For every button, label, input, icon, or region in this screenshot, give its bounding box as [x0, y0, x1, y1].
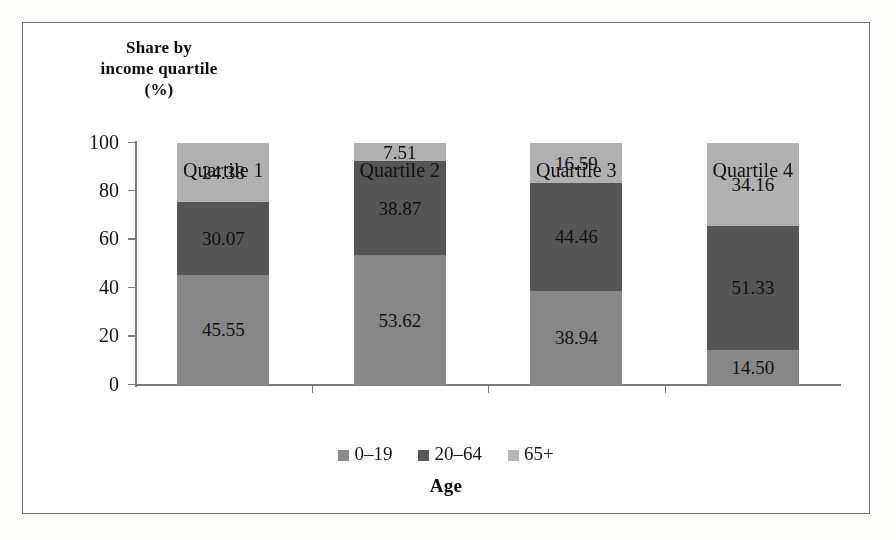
x-tick-1 [312, 385, 313, 393]
bar-value-label: 30.07 [202, 229, 245, 248]
y-axis-title: Share by income quartile (%) [75, 37, 243, 100]
y-tick-label-20: 20 [99, 324, 119, 347]
bar-value-label: 53.62 [378, 311, 421, 330]
bar-value-label: 45.55 [202, 320, 245, 339]
bar-segment-019-q2: 53.62 [354, 255, 446, 385]
y-tick-20: 20 [128, 335, 135, 336]
bar-value-label: 44.46 [555, 227, 598, 246]
y-tick-label-100: 100 [89, 130, 119, 153]
plot-area: 100 80 60 40 20 0 24.3830.0745.557.5138.… [135, 143, 841, 385]
bar-value-label: 38.94 [555, 328, 598, 347]
y-tick-label-0: 0 [109, 372, 119, 395]
x-axis-title: Age [23, 475, 869, 497]
bar-segment-019-q3: 38.94 [530, 291, 622, 385]
legend-label: 65+ [524, 443, 554, 465]
y-tick-label-60: 60 [99, 227, 119, 250]
bar-segment-2064-q4: 51.33 [707, 226, 799, 350]
y-tick-label-40: 40 [99, 275, 119, 298]
bar-segment-019-q1: 45.55 [177, 275, 269, 385]
y-tick-label-80: 80 [99, 179, 119, 202]
legend-item-019[interactable]: 0–19 [338, 443, 392, 465]
y-axis-title-line-2: income quartile [75, 58, 243, 79]
x-axis-label-quartile-2: Quartile 2 [305, 159, 495, 182]
y-tick-0: 0 [128, 384, 135, 385]
bar-value-label: 14.50 [731, 358, 774, 377]
legend-swatch-icon [338, 450, 349, 461]
bar-segment-65+-q4: 34.16 [707, 143, 799, 226]
y-axis-title-line-3: (%) [75, 79, 243, 100]
bar-value-label: 38.87 [378, 199, 421, 218]
bar-segment-2064-q1: 30.07 [177, 202, 269, 275]
x-axis-label-quartile-1: Quartile 1 [128, 159, 318, 182]
x-axis-label-quartile-4: Quartile 4 [658, 159, 848, 182]
bar-segment-019-q4: 14.50 [707, 350, 799, 385]
y-tick-100: 100 [128, 142, 135, 143]
y-tick-40: 40 [128, 287, 135, 288]
bar-value-label: 51.33 [731, 278, 774, 297]
legend-item-2064[interactable]: 20–64 [418, 443, 482, 465]
legend-swatch-icon [508, 450, 519, 461]
legend-swatch-icon [418, 450, 429, 461]
y-tick-80: 80 [128, 190, 135, 191]
y-tick-60: 60 [128, 238, 135, 239]
bar-segment-2064-q3: 44.46 [530, 183, 622, 291]
legend-label: 20–64 [434, 443, 482, 465]
chart-legend[interactable]: 0–1920–6465+ [23, 443, 869, 465]
x-tick-3 [665, 385, 666, 393]
chart-figure-frame: Share by income quartile (%) 100 80 60 4… [22, 22, 870, 514]
legend-item-65+[interactable]: 65+ [508, 443, 554, 465]
legend-label: 0–19 [354, 443, 392, 465]
y-axis-title-line-1: Share by [75, 37, 243, 58]
x-tick-2 [488, 385, 489, 393]
x-axis-label-quartile-3: Quartile 3 [481, 159, 671, 182]
